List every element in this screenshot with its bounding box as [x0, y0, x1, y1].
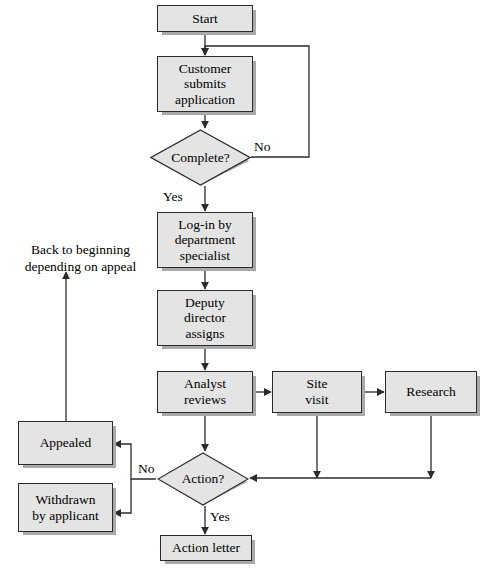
- node-research-label: Research: [404, 384, 457, 400]
- node-action-letter-label: Action letter: [170, 540, 242, 556]
- node-start[interactable]: Start: [157, 5, 253, 32]
- node-action-letter[interactable]: Action letter: [160, 535, 252, 561]
- edge-label-complete-yes: Yes: [163, 189, 183, 205]
- node-complete-decision[interactable]: Complete?: [150, 129, 251, 186]
- node-site-visit-label: Site visit: [303, 376, 330, 407]
- flowchart-canvas: Start Customer submits application Compl…: [0, 0, 485, 569]
- node-analyst-reviews-label: Analyst reviews: [182, 376, 228, 407]
- node-withdrawn-by-applicant[interactable]: Withdrawn by applicant: [18, 483, 113, 532]
- node-customer-submits-application-label: Customer submits application: [173, 61, 237, 108]
- node-login-by-department-specialist[interactable]: Log-in by department specialist: [157, 212, 253, 268]
- node-login-by-department-specialist-label: Log-in by department specialist: [173, 217, 238, 264]
- node-research[interactable]: Research: [385, 371, 477, 413]
- edge-action-no-to-withdrawn: [114, 479, 131, 513]
- edge-label-action-yes: Yes: [210, 509, 230, 525]
- node-deputy-director-assigns-label: Deputy director assigns: [182, 295, 228, 342]
- node-appealed[interactable]: Appealed: [18, 421, 113, 465]
- edge-label-action-no: No: [138, 461, 155, 477]
- node-action-decision[interactable]: Action?: [157, 452, 249, 506]
- node-site-visit[interactable]: Site visit: [272, 371, 362, 413]
- node-start-label: Start: [190, 11, 220, 27]
- node-analyst-reviews[interactable]: Analyst reviews: [157, 371, 253, 413]
- node-deputy-director-assigns[interactable]: Deputy director assigns: [157, 290, 253, 346]
- note-back-to-beginning: Back to beginning depending on appeal: [8, 242, 153, 276]
- node-withdrawn-by-applicant-label: Withdrawn by applicant: [30, 492, 100, 523]
- edge-label-complete-no: No: [254, 139, 271, 155]
- node-customer-submits-application[interactable]: Customer submits application: [157, 56, 253, 112]
- node-complete-decision-label: Complete?: [171, 150, 229, 166]
- node-action-decision-label: Action?: [182, 471, 225, 487]
- node-appealed-label: Appealed: [38, 435, 94, 451]
